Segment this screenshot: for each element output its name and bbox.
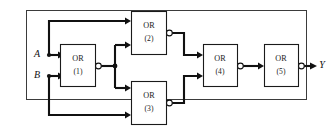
input-label-b: B <box>34 69 40 80</box>
junction-a <box>47 53 51 57</box>
output-label-y: Y <box>319 59 326 70</box>
gate-4[interactable]: OR (4) <box>204 45 244 87</box>
gate-4-inversion-bubble-icon <box>238 63 244 69</box>
logic-circuit-svg: OR (1) OR (2) OR (3) OR (4) OR <box>0 0 334 138</box>
gate-5-type-label: OR <box>275 54 287 63</box>
gate-2[interactable]: OR (2) <box>132 12 173 55</box>
arrowhead-gate3-in2 <box>125 112 131 119</box>
gate-3-type-label: OR <box>143 91 155 100</box>
arrowhead-y-out <box>310 63 317 70</box>
arrowhead-gate2-in2 <box>125 42 131 49</box>
gate-4-type-label: OR <box>214 54 226 63</box>
arrowhead-gate5-in1 <box>258 63 264 70</box>
junction-b <box>47 74 51 78</box>
circuit-diagram-canvas: OR (1) OR (2) OR (3) OR (4) OR <box>0 0 334 138</box>
arrowhead-gate3-in1 <box>125 85 131 92</box>
gate-4-number-label: (4) <box>216 67 225 76</box>
gate-1[interactable]: OR (1) <box>61 45 102 87</box>
gate-2-type-label: OR <box>143 21 155 30</box>
gate-5-inversion-bubble-icon <box>299 63 305 69</box>
gate-1-inversion-bubble-icon <box>96 63 102 69</box>
arrowhead-gate2-in1 <box>125 18 131 25</box>
gate-1-box <box>61 45 96 87</box>
gate-5-box <box>265 45 299 87</box>
gate-1-type-label: OR <box>72 54 84 63</box>
gate-5-number-label: (5) <box>277 67 286 76</box>
gate-1-number-label: (1) <box>74 67 83 76</box>
arrowhead-gate4-in1 <box>197 52 203 59</box>
gate-2-number-label: (2) <box>145 34 154 43</box>
gate-5[interactable]: OR (5) <box>265 45 305 87</box>
gate-2-inversion-bubble-icon <box>167 30 173 36</box>
wire-gate2-to-gate4 <box>172 33 197 55</box>
gate-3-inversion-bubble-icon <box>167 100 173 106</box>
junction-gate1-out <box>113 64 118 69</box>
input-label-a: A <box>33 48 41 59</box>
gate-4-box <box>204 45 238 87</box>
gate-3[interactable]: OR (3) <box>132 82 173 125</box>
gate-3-number-label: (3) <box>145 104 154 113</box>
wire-gate3-to-gate4 <box>172 76 197 103</box>
arrowhead-gate4-in2 <box>197 73 203 80</box>
